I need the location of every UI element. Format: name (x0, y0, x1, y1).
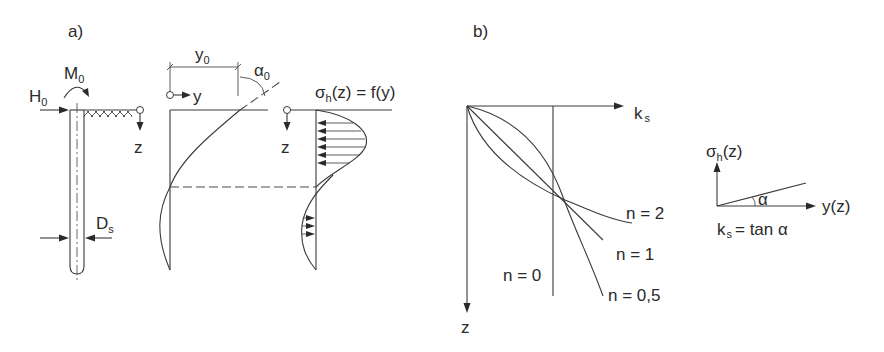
svg-text:y: y (193, 87, 202, 106)
deflection-diagram: y y0 α0 (160, 45, 280, 270)
panel-a: a) H0 M0 z (29, 22, 395, 280)
curve-n1 (467, 106, 603, 240)
deflection-curve (160, 110, 240, 270)
arrowhead-icon (614, 103, 624, 110)
svg-text:z: z (461, 318, 470, 337)
svg-text:n = 0,5: n = 0,5 (608, 286, 660, 305)
panel-b: b) ks z n = 2 n = 1 n = 0 n = 0,5 σh(z) … (461, 22, 850, 337)
pile (70, 103, 84, 280)
svg-text:α0: α0 (254, 61, 270, 82)
figure-canvas: a) H0 M0 z (0, 0, 884, 352)
svg-text:ks: ks (634, 104, 651, 124)
ground-hatch (84, 111, 132, 117)
arrowhead-icon (284, 122, 291, 131)
panel-b-label: b) (473, 22, 488, 41)
moment-arc-icon (64, 87, 86, 98)
arrowhead-icon (137, 122, 144, 131)
svg-text:y0: y0 (195, 45, 210, 66)
pressure-arrows-lower (302, 215, 315, 237)
arrowhead-icon (59, 107, 69, 114)
svg-text:M0: M0 (64, 64, 84, 85)
arrowhead-icon (714, 162, 721, 172)
svg-text:α: α (758, 190, 768, 209)
moment-m0: M0 (64, 64, 89, 98)
svg-text:z: z (134, 138, 143, 157)
svg-text:z: z (281, 138, 290, 157)
svg-text:n = 2: n = 2 (626, 204, 664, 223)
arrowhead-icon (59, 235, 69, 242)
arrowhead-icon (806, 203, 816, 210)
tangent-dashed-line (240, 82, 280, 110)
svg-text:H0: H0 (29, 87, 47, 108)
panel-a-label: a) (68, 22, 83, 41)
curve-n2 (467, 106, 632, 223)
angle-arc (752, 197, 755, 206)
arrowhead-icon (85, 235, 95, 242)
svg-text:σh(z): σh(z) (706, 142, 742, 163)
arrowhead-icon (464, 303, 471, 313)
svg-text:n = 1: n = 1 (616, 245, 654, 264)
svg-text:y(z): y(z) (822, 197, 850, 216)
svg-text:Ds: Ds (96, 214, 114, 235)
inset-ks-definition: σh(z) y(z) α ks= tan α (706, 142, 850, 240)
svg-text:n = 0: n = 0 (503, 266, 541, 285)
pressure-curve-lower (302, 175, 333, 270)
svg-text:ks= tan α: ks= tan α (717, 220, 788, 240)
z-axis-marker-1: z (134, 107, 144, 158)
arrowhead-icon (182, 92, 191, 99)
horizontal-force-h0: H0 (29, 87, 69, 114)
pressure-diagram: σh(z) = f(y) z (281, 83, 395, 270)
svg-text:σh(z) = f(y): σh(z) = f(y) (315, 83, 395, 104)
